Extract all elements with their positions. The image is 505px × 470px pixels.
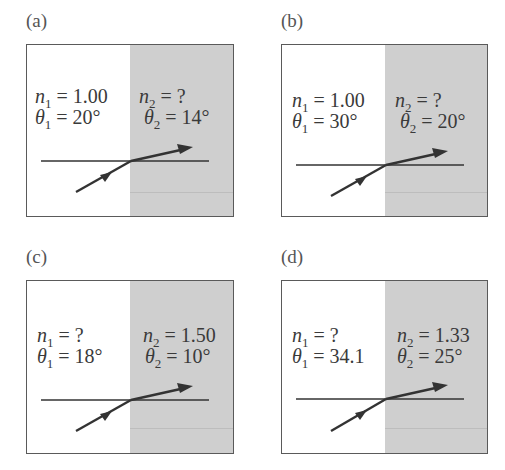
refracted-ray — [131, 149, 185, 161]
panel-c: (c) n1 = ? θ1 = 18° n2 = 1.50 θ2 = 10° — [0, 236, 250, 470]
panel-label: (a) — [26, 10, 47, 32]
incident-arrowhead-icon — [355, 176, 367, 186]
refracted-arrowhead-icon — [432, 382, 448, 392]
refraction-diagram: n1 = 1.00 θ1 = 20° n2 = ? θ2 = 14° — [26, 44, 234, 217]
refracted-ray — [386, 387, 440, 399]
refraction-diagram: n1 = 1.00 θ1 = 30° n2 = ? θ2 = 20° — [281, 44, 488, 217]
light-ray-diagram — [27, 281, 234, 454]
refracted-arrowhead-icon — [177, 383, 193, 393]
light-ray-diagram — [282, 281, 488, 454]
incident-arrowhead-icon — [100, 411, 112, 421]
refracted-arrowhead-icon — [432, 148, 448, 158]
refraction-diagram: n1 = ? θ1 = 34.1 n2 = 1.33 θ2 = 25° — [281, 280, 488, 454]
incident-arrowhead-icon — [100, 172, 112, 182]
panel-b: (b) n1 = 1.00 θ1 = 30° n2 = ? θ2 = 20° — [255, 0, 505, 230]
panel-d: (d) n1 = ? θ1 = 34.1 n2 = 1.33 θ2 = 25° — [255, 236, 505, 470]
light-ray-diagram — [27, 45, 234, 217]
refracted-arrowhead-icon — [177, 144, 193, 154]
refracted-ray — [131, 388, 185, 400]
light-ray-diagram — [282, 45, 488, 217]
incident-arrowhead-icon — [355, 410, 367, 420]
refraction-diagram: n1 = ? θ1 = 18° n2 = 1.50 θ2 = 10° — [26, 280, 234, 454]
panel-label: (c) — [26, 246, 47, 268]
panel-label: (b) — [281, 10, 303, 32]
panel-label: (d) — [281, 246, 303, 268]
panel-a: (a) n1 = 1.00 θ1 = 20° n2 = ? θ2 = 14° — [0, 0, 250, 230]
refracted-ray — [386, 153, 440, 165]
